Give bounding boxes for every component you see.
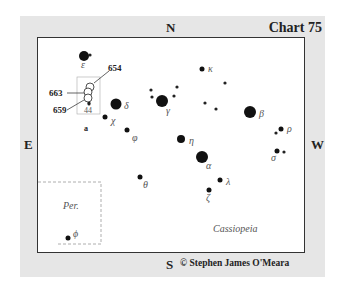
star-delta: [111, 99, 122, 110]
stars-layer: εδχφγκηαλζθβρσϕ: [66, 51, 293, 241]
callout-44: 44: [84, 106, 92, 115]
star-rho: [279, 127, 284, 132]
perseus-inset-box: [38, 182, 101, 244]
cluster-layer: [84, 83, 94, 106]
star-chart-svg: εδχφγκηαλζθβρσϕ 654 663 659 44 a Per. Ca…: [0, 0, 344, 291]
star-label-lambda: λ: [225, 176, 231, 187]
field-label-a: a: [84, 124, 88, 133]
cassiopeia-label: Cassiopeia: [213, 223, 257, 234]
faint-star: [223, 81, 226, 84]
callout-line-659: [67, 100, 84, 110]
faint-star: [150, 95, 153, 98]
star-phi-per: [66, 236, 71, 241]
star-label-chi: χ: [110, 115, 116, 126]
faint-star: [149, 88, 152, 91]
star-label-phi-per: ϕ: [73, 228, 78, 239]
perseus-label: Per.: [62, 200, 79, 211]
star-kappa: [200, 67, 205, 72]
star-label-theta: θ: [143, 179, 148, 190]
faint-star: [214, 107, 217, 110]
star-label-zeta: ζ: [206, 192, 211, 204]
callout-659: 659: [53, 105, 67, 115]
star-label-alpha: α: [206, 160, 212, 171]
star-label-eta: η: [189, 135, 194, 146]
star-beta: [244, 106, 256, 118]
faint-star: [274, 131, 277, 134]
star-label-kappa: κ: [208, 63, 213, 74]
callout-654: 654: [108, 63, 122, 73]
faint-star: [282, 150, 285, 153]
star-phi: [125, 128, 130, 133]
star-chi: [103, 115, 108, 120]
star-label-delta: δ: [124, 100, 129, 111]
star-theta: [138, 175, 143, 180]
star-lambda: [218, 178, 223, 183]
callout-663: 663: [49, 88, 63, 98]
star-eta: [177, 135, 185, 143]
star-label-beta: β: [258, 108, 264, 119]
star-label-epsilon: ε: [81, 59, 85, 70]
cluster-circle: [84, 94, 92, 102]
star-label-phi: φ: [132, 132, 138, 143]
star-label-gamma: γ: [166, 105, 171, 116]
star-label-sigma: σ: [271, 152, 277, 163]
star-label-rho: ρ: [286, 123, 292, 134]
faint-star: [203, 101, 206, 104]
faint-star: [175, 85, 178, 88]
faint-star: [172, 94, 175, 97]
